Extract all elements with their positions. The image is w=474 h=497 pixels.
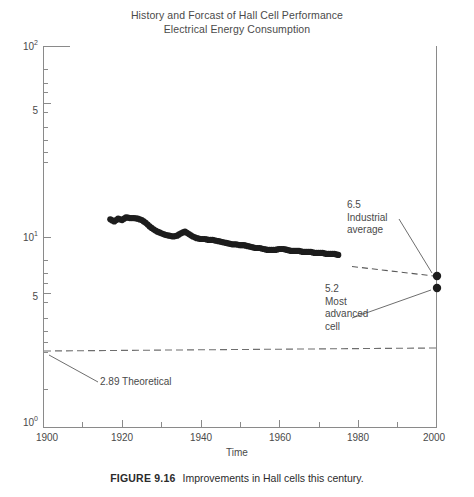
y-tick-label-5: 5 [4,291,38,302]
x-tick-label-1920: 1920 [111,432,133,443]
annotation-theoretical: 2.89 Theoretical [100,376,172,389]
figure-caption-text: Improvements in Hall cells this century. [182,472,363,484]
data-series-markers [107,214,341,258]
x-tick-label-1900: 1900 [36,432,58,443]
forecast-line [352,267,434,277]
annotation-most-advanced-cell-line4: cell [325,321,368,334]
point-industrial-average [433,272,441,280]
y-tick-label-1: 100 [4,417,38,428]
leader-line-industrial-average [399,219,432,273]
y-tick-label-100: 102 [4,41,38,52]
annotation-industrial-average: 6.5 Industrial average [347,199,388,237]
x-tick-label-2000: 2000 [423,432,445,443]
x-tick-label-1940: 1940 [190,432,212,443]
point-most-advanced-cell [433,284,441,292]
annotation-most-advanced-cell-line2: Most [325,296,368,309]
theoretical-line [44,348,436,351]
y-tick-label-50: 5 [4,105,38,116]
annotation-most-advanced-cell: 5.2 Most advanced cell [325,283,368,333]
annotation-most-advanced-cell-line3: advanced [325,308,368,321]
x-axis-ticks [44,420,437,428]
annotation-industrial-average-line1: 6.5 [347,199,388,212]
y-tick-label-10: 101 [4,232,38,243]
leader-line-theoretical [49,355,98,382]
plot-area [0,0,474,497]
annotation-industrial-average-line2: Industrial [347,212,388,225]
annotation-most-advanced-cell-line1: 5.2 [325,283,368,296]
figure-container: History and Forcast of Hall Cell Perform… [0,0,474,497]
figure-caption: FIGURE 9.16Improvements in Hall cells th… [0,472,474,484]
x-tick-label-1960: 1960 [269,432,291,443]
annotation-industrial-average-line3: average [347,224,388,237]
x-axis-label: Time [0,447,474,458]
y-axis-ticks [44,47,52,428]
x-tick-label-1980: 1980 [347,432,369,443]
figure-number: FIGURE 9.16 [110,472,175,484]
